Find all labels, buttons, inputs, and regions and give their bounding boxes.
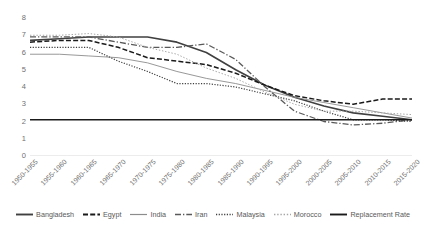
y-axis-tick-7: 7 xyxy=(0,31,26,39)
y-axis-tick-4: 4 xyxy=(0,83,26,91)
chart-legend: BangladeshEgyptIndiaIranMalaysiaMoroccoR… xyxy=(0,206,426,222)
legend-item-morocco[interactable]: Morocco xyxy=(274,210,322,219)
plot-svg xyxy=(30,18,412,156)
y-axis-tick-8: 8 xyxy=(0,14,26,22)
legend-item-malaysia[interactable]: Malaysia xyxy=(216,210,264,219)
series-line-india xyxy=(30,54,412,118)
legend-label-egypt: Egypt xyxy=(103,210,121,219)
legend-swatch-replacement-rate-icon xyxy=(330,211,347,218)
y-axis-tick-6: 6 xyxy=(0,49,26,57)
legend-item-india[interactable]: India xyxy=(130,210,166,219)
series-line-malaysia xyxy=(30,47,412,121)
x-axis: 1950-19551955-19601960-19651965-19701970… xyxy=(30,158,412,204)
legend-label-bangladesh: Bangladesh xyxy=(36,210,74,219)
y-axis: 876543210 xyxy=(0,18,26,156)
legend-item-bangladesh[interactable]: Bangladesh xyxy=(16,210,74,219)
y-axis-tick-3: 3 xyxy=(0,100,26,108)
legend-swatch-india-icon xyxy=(130,211,147,218)
legend-swatch-iran-icon xyxy=(175,211,192,218)
legend-label-malaysia: Malaysia xyxy=(236,210,264,219)
legend-swatch-malaysia-icon xyxy=(216,211,233,218)
y-axis-tick-2: 2 xyxy=(0,118,26,126)
legend-item-egypt[interactable]: Egypt xyxy=(83,210,121,219)
y-axis-tick-5: 5 xyxy=(0,66,26,74)
legend-item-iran[interactable]: Iran xyxy=(175,210,207,219)
plot-area xyxy=(30,18,412,156)
legend-item-replacement-rate[interactable]: Replacement Rate xyxy=(330,210,410,219)
legend-swatch-morocco-icon xyxy=(274,211,291,218)
y-axis-tick-1: 1 xyxy=(0,135,26,143)
y-axis-tick-0: 0 xyxy=(0,152,26,160)
series-line-egypt xyxy=(30,40,412,104)
legend-swatch-bangladesh-icon xyxy=(16,211,33,218)
series-line-bangladesh xyxy=(30,37,412,120)
series-line-morocco xyxy=(30,34,412,115)
legend-label-iran: Iran xyxy=(195,210,207,219)
legend-swatch-egypt-icon xyxy=(83,211,100,218)
legend-label-replacement-rate: Replacement Rate xyxy=(350,210,410,219)
legend-label-morocco: Morocco xyxy=(294,210,322,219)
legend-label-india: India xyxy=(150,210,166,219)
fertility-rate-line-chart: 876543210 1950-19551955-19601960-1965196… xyxy=(0,0,426,230)
